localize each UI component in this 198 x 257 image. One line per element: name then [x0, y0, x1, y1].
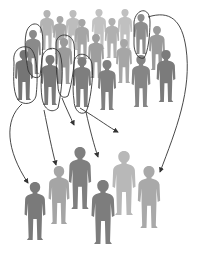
arrow-icon: [44, 110, 56, 165]
population-crowd: [15, 9, 175, 110]
person-figure: [134, 14, 148, 54]
sample-person-figure: [91, 180, 114, 244]
sample-person-figure: [112, 151, 135, 215]
person-figure: [132, 55, 151, 107]
arrow-icon: [10, 104, 28, 183]
sample-person-figure: [69, 147, 91, 209]
sample-person-figure: [138, 166, 160, 228]
sample-person-figure: [49, 166, 70, 224]
sample-person-figure: [25, 182, 46, 240]
diagram-canvas: [0, 0, 198, 257]
person-figure: [116, 39, 132, 83]
sampling-diagram: [0, 0, 198, 257]
arrow-icon: [62, 98, 74, 125]
arrow-icon: [80, 108, 118, 132]
arrow-icon: [86, 112, 98, 157]
selected-sample: [25, 147, 161, 244]
person-figure: [73, 57, 91, 107]
